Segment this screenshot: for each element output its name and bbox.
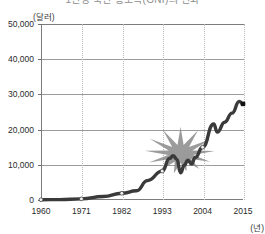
gridline-vertical <box>204 24 205 200</box>
gridline-vertical <box>163 24 164 200</box>
gridline-horizontal <box>42 130 244 131</box>
y-axis-tick-mark <box>38 200 42 201</box>
gridline-vertical <box>123 24 124 200</box>
gridline-horizontal <box>42 94 244 95</box>
y-axis-tick-label: 50,000 <box>0 19 34 29</box>
x-axis-tick-label: 2004 <box>193 206 212 216</box>
gridline-horizontal <box>42 24 244 25</box>
chart-title: 1인당 국민 총소득(GNI)의 변화 <box>0 0 265 6</box>
y-axis-tick-mark <box>38 165 42 166</box>
y-axis-tick-label: 0 <box>0 195 34 205</box>
x-axis-tick-label: 1982 <box>112 206 131 216</box>
y-axis-tick-label: 20,000 <box>0 125 34 135</box>
x-axis-tick-label: 1960 <box>32 206 51 216</box>
chart-container: 1인당 국민 총소득(GNI)의 변화 (달러) 010,00020,00030… <box>0 0 265 234</box>
gridline-horizontal <box>42 165 244 166</box>
x-axis-tick-label: 1971 <box>72 206 91 216</box>
y-axis-tick-label: 40,000 <box>0 54 34 64</box>
gridline-vertical <box>244 24 245 200</box>
x-axis-unit-label: (년) <box>250 221 264 233</box>
y-axis-tick-label: 10,000 <box>0 160 34 170</box>
y-axis-tick-mark <box>38 24 42 25</box>
plot-area <box>41 24 243 200</box>
y-axis-tick-label: 30,000 <box>0 89 34 99</box>
y-axis-tick-mark <box>38 130 42 131</box>
y-axis-tick-mark <box>38 94 42 95</box>
gridline-vertical <box>82 24 83 200</box>
x-axis-tick-label: 1993 <box>153 206 172 216</box>
gridline-horizontal <box>42 59 244 60</box>
x-axis-tick-label: 2015 <box>234 206 253 216</box>
y-axis-unit-label: (달러) <box>33 10 55 22</box>
y-axis-tick-mark <box>38 59 42 60</box>
